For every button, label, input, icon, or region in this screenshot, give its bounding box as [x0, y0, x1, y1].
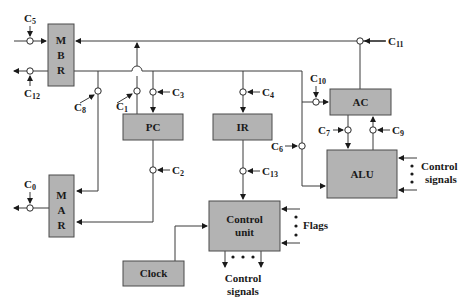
gate-c2: [150, 167, 156, 173]
ir-label: IR: [236, 121, 249, 133]
label-c2: C2: [172, 164, 184, 178]
gate-c13: [240, 168, 246, 174]
label-c0: C0: [24, 178, 36, 192]
alu-control-label-1: Control: [421, 160, 457, 172]
label-c9: C9: [392, 124, 404, 138]
block-mar: M A R: [49, 175, 74, 237]
ellipsis-dot: [294, 224, 297, 227]
wire-crossover: [132, 66, 142, 71]
block-clock: Clock: [123, 261, 184, 286]
pc-label: PC: [146, 121, 161, 133]
mbr-letter-1: M: [56, 34, 67, 46]
gate-c9: [370, 127, 376, 133]
gate-c10: [313, 99, 319, 105]
clock-to-cu-wire: [175, 226, 207, 261]
gate-c0: [27, 205, 33, 211]
label-c12: C12: [24, 87, 40, 101]
gate-c3: [150, 89, 156, 95]
label-c6: C6: [271, 140, 283, 154]
label-c7: C7: [318, 124, 330, 138]
gate-c12: [27, 68, 33, 74]
block-alu: ALU: [327, 150, 397, 198]
control-unit-label-1: Control: [226, 213, 262, 225]
block-pc: PC: [123, 114, 183, 140]
gate-c6: [299, 143, 305, 149]
label-c11: C11: [388, 35, 404, 49]
label-c1: C1: [116, 100, 128, 114]
label-c3: C3: [172, 86, 184, 100]
cpu-datapath-diagram: M B R M A R PC IR AC ALU Control unit Cl…: [0, 0, 464, 306]
label-c8: C8: [74, 101, 86, 115]
ellipsis-dot: [294, 233, 297, 236]
clock-label: Clock: [140, 267, 168, 279]
ellipsis-dot: [251, 255, 254, 258]
control-unit-label-2: unit: [235, 226, 254, 238]
block-control-unit: Control unit: [209, 201, 280, 251]
gate-c1: [134, 88, 140, 94]
ac-label: AC: [353, 96, 369, 108]
mar-letter-2: A: [58, 204, 66, 216]
mar-letter-3: R: [58, 219, 67, 231]
ellipsis-dot: [410, 172, 413, 175]
flags-inputs: Flags: [294, 215, 328, 236]
label-c13: C13: [262, 165, 278, 179]
bus-to-mar-wire: [77, 71, 98, 191]
alu-control-signals: Control signals: [410, 160, 457, 185]
gate-c8: [95, 88, 101, 94]
gate-c4: [240, 89, 246, 95]
ellipsis-dot: [410, 180, 413, 183]
c8-arrow: [80, 95, 94, 103]
pc-to-mar-wire: [77, 140, 153, 222]
ellipsis-dot: [241, 255, 244, 258]
ellipsis-dot: [231, 255, 234, 258]
alu-label: ALU: [350, 168, 373, 180]
gate-c7: [345, 127, 351, 133]
block-mbr: M B R: [48, 24, 74, 86]
label-c5: C5: [24, 12, 36, 26]
ellipsis-dot: [294, 215, 297, 218]
label-c4: C4: [262, 86, 274, 100]
block-ir: IR: [213, 114, 272, 140]
mbr-letter-3: R: [57, 64, 66, 76]
flags-label: Flags: [303, 219, 329, 231]
mbr-letter-2: B: [57, 49, 65, 61]
ellipsis-dot: [410, 164, 413, 167]
gate-c5: [27, 38, 33, 44]
label-c10: C10: [310, 72, 326, 86]
cu-control-signals: Control signals: [225, 255, 261, 297]
cu-output-label-2: signals: [227, 285, 260, 297]
mar-letter-1: M: [56, 189, 67, 201]
block-ac: AC: [330, 89, 391, 115]
gate-c11: [357, 38, 363, 44]
cu-output-label-1: Control: [225, 272, 261, 284]
alu-control-label-2: signals: [425, 173, 458, 185]
